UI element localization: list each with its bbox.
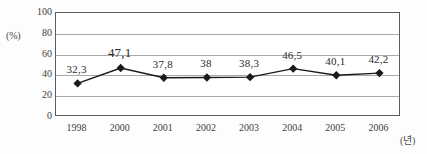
- chart-screenshot: (%) 100806040200 32,347,137,83838,346,54…: [0, 0, 427, 154]
- data-point-marker: [289, 64, 297, 72]
- x-axis-tick-2003: 2003: [239, 122, 259, 133]
- y-axis-tick-labels: 100806040200: [28, 0, 52, 154]
- data-point-marker: [116, 64, 124, 72]
- x-axis-tick-2006: 2006: [368, 122, 388, 133]
- x-axis-tick-2002: 2002: [196, 122, 216, 133]
- y-axis-tick-0: 0: [28, 111, 52, 121]
- x-axis-tick-2001: 2001: [153, 122, 173, 133]
- data-label-2005: 40,1: [325, 55, 345, 67]
- x-axis-tick-1998: 1998: [67, 122, 87, 133]
- data-label-2004: 46,5: [282, 49, 302, 61]
- data-point-marker: [203, 73, 211, 81]
- y-axis-tick-100: 100: [28, 7, 52, 17]
- data-point-marker: [246, 73, 254, 81]
- data-label-1998: 32,3: [67, 63, 87, 75]
- data-series: [56, 13, 401, 117]
- series-markers: [73, 64, 383, 88]
- x-axis-tick-2005: 2005: [325, 122, 345, 133]
- x-axis-tick-2000: 2000: [110, 122, 130, 133]
- y-axis-unit-label: (%): [6, 30, 20, 41]
- data-point-marker: [73, 79, 81, 87]
- y-axis-tick-80: 80: [28, 28, 52, 38]
- data-label-2003: 38,3: [239, 57, 259, 69]
- data-point-marker: [332, 71, 340, 79]
- data-label-2001: 37,8: [153, 58, 173, 70]
- y-axis-tick-60: 60: [28, 49, 52, 59]
- data-label-2002: 38: [200, 57, 211, 69]
- y-axis-tick-20: 20: [28, 90, 52, 100]
- data-label-2000: 47,1: [108, 45, 132, 61]
- data-label-2006: 42,2: [368, 53, 388, 65]
- data-point-marker: [160, 73, 168, 81]
- x-axis-tick-2004: 2004: [282, 122, 302, 133]
- plot-area: [55, 12, 400, 116]
- y-axis-tick-40: 40: [28, 69, 52, 79]
- data-point-marker: [375, 69, 383, 77]
- x-axis-unit-label: (년): [400, 132, 415, 147]
